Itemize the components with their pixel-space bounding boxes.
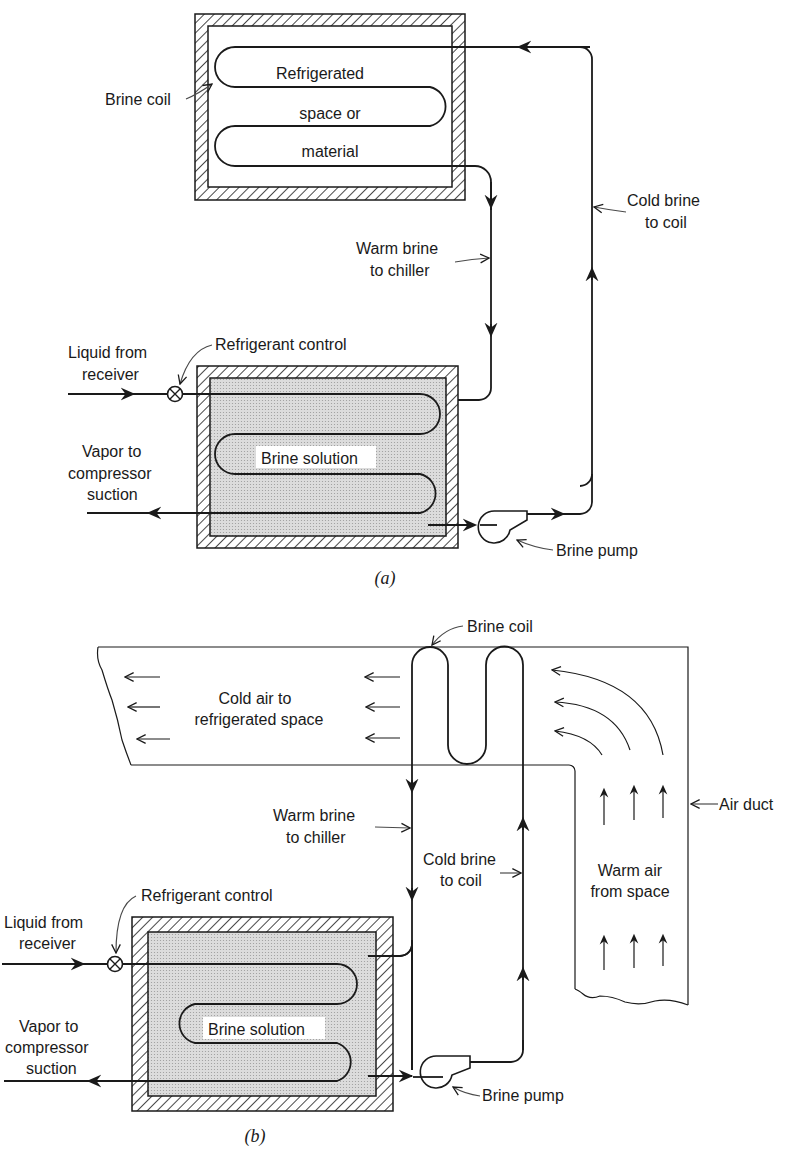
warm-brine-label-a-1: Warm brine — [356, 240, 438, 257]
cold-air-label-1: Cold air to — [219, 690, 292, 707]
refrigerant-control-valve-b — [108, 957, 123, 972]
vapor-label-a-2: compressor — [68, 465, 152, 482]
part-b: Brine coil Cold air to refrigerated spac… — [2, 618, 774, 1147]
brine-pump-label-b: Brine pump — [482, 1087, 564, 1104]
brine-coil-label-a: Brine coil — [105, 91, 171, 108]
brine-solution-label-b: Brine solution — [208, 1021, 305, 1038]
air-duct-label: Air duct — [719, 796, 774, 813]
vapor-label-b-3: suction — [26, 1060, 77, 1077]
space-label-3: material — [302, 143, 359, 160]
caption-a: (a) — [375, 568, 396, 589]
liquid-label-b-1: Liquid from — [4, 914, 83, 931]
vapor-label-b-2: compressor — [5, 1039, 89, 1056]
brine-pump-a — [478, 511, 527, 543]
cold-brine-label-a-1: Cold brine — [627, 192, 700, 209]
warm-air-label-1: Warm air — [598, 862, 663, 879]
cold-air-arrows — [125, 677, 400, 739]
brine-pump-label-a: Brine pump — [556, 542, 638, 559]
warm-air-label-2: from space — [590, 883, 669, 900]
liquid-label-b-2: receiver — [19, 935, 77, 952]
liquid-label-a-2: receiver — [82, 366, 140, 383]
refrigerant-control-valve-a — [168, 387, 183, 402]
turning-air-arrows — [552, 670, 663, 755]
refrigerant-control-label-b: Refrigerant control — [141, 887, 273, 904]
vapor-label-a-1: Vapor to — [82, 443, 141, 460]
cold-brine-label-b-1: Cold brine — [423, 851, 496, 868]
brine-coil-label-b: Brine coil — [467, 618, 533, 635]
brine-solution-label-a: Brine solution — [261, 450, 358, 467]
brine-refrigeration-diagram: Refrigerated space or material Brine coi… — [0, 0, 798, 1159]
cold-air-label-2: refrigerated space — [195, 711, 324, 728]
liquid-label-a-1: Liquid from — [68, 344, 147, 361]
warm-brine-label-a-2: to chiller — [370, 262, 430, 279]
part-a: Refrigerated space or material Brine coi… — [68, 14, 700, 589]
warm-brine-label-b-1: Warm brine — [273, 807, 355, 824]
vapor-label-a-3: suction — [87, 486, 138, 503]
vapor-label-b-1: Vapor to — [19, 1018, 78, 1035]
cold-brine-label-a-2: to coil — [645, 214, 687, 231]
brine-pump-b — [413, 1056, 470, 1088]
caption-b: (b) — [245, 1126, 266, 1147]
warm-brine-label-b-2: to chiller — [286, 829, 346, 846]
cold-brine-label-b-2: to coil — [440, 872, 482, 889]
cold-brine-line-a — [580, 47, 592, 486]
space-label-2: space or — [299, 105, 361, 122]
space-label-1: Refrigerated — [276, 65, 364, 82]
refrigerant-control-label-a: Refrigerant control — [215, 336, 347, 353]
